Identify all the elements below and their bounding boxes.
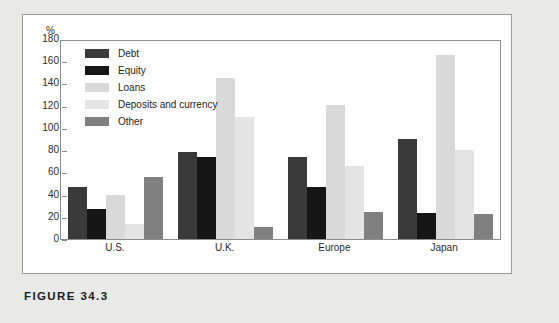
bar-japan-deposits-and-currency bbox=[455, 150, 474, 239]
bar-u-k--equity bbox=[197, 157, 216, 240]
bar-u-s--deposits-and-currency bbox=[125, 224, 144, 239]
bar-japan-other bbox=[474, 214, 493, 239]
y-axis-tick-mark bbox=[62, 240, 67, 241]
legend-item-label: Loans bbox=[118, 83, 145, 93]
bar-u-s--other bbox=[144, 177, 163, 239]
bar-group-japan bbox=[390, 41, 500, 239]
legend-item-label: Debt bbox=[118, 49, 139, 59]
bar-u-s--equity bbox=[87, 209, 106, 239]
bar-u-k--loans bbox=[216, 78, 235, 239]
legend-item-deposits-and-currency: Deposits and currency bbox=[85, 96, 218, 113]
legend-item-other: Other bbox=[85, 113, 218, 130]
legend-swatch-icon bbox=[85, 49, 109, 58]
x-axis-label-u-s-: U.S. bbox=[60, 243, 170, 253]
bar-u-s--debt bbox=[68, 187, 87, 239]
bar-japan-equity bbox=[417, 213, 436, 239]
bar-group-europe bbox=[281, 41, 391, 239]
x-axis: U.S.U.K.EuropeJapan bbox=[60, 243, 501, 263]
legend-swatch-icon bbox=[85, 117, 109, 126]
bar-europe-deposits-and-currency bbox=[345, 166, 364, 239]
x-axis-label-u-k-: U.K. bbox=[170, 243, 280, 253]
y-axis-tick-label: 180 bbox=[42, 34, 59, 44]
bar-u-k--debt bbox=[178, 152, 197, 239]
y-axis-tick-label: 0 bbox=[53, 234, 59, 244]
y-axis-tick-label: 20 bbox=[48, 212, 59, 222]
y-axis-tick-label: 40 bbox=[48, 190, 59, 200]
y-axis-tick-label: 140 bbox=[42, 78, 59, 88]
legend-item-label: Deposits and currency bbox=[118, 100, 218, 110]
legend-swatch-icon bbox=[85, 66, 109, 75]
chart-legend: DebtEquityLoansDeposits and currencyOthe… bbox=[85, 45, 218, 130]
bar-europe-debt bbox=[288, 157, 307, 240]
figure-panel: % 020406080100120140160180 DebtEquityLoa… bbox=[22, 14, 512, 274]
bar-u-k--deposits-and-currency bbox=[235, 117, 254, 239]
bar-europe-loans bbox=[326, 105, 345, 239]
bar-u-s--loans bbox=[106, 195, 125, 239]
y-axis-tick-label: 160 bbox=[42, 56, 59, 66]
legend-swatch-icon bbox=[85, 100, 109, 109]
legend-item-equity: Equity bbox=[85, 62, 218, 79]
x-axis-label-europe: Europe bbox=[280, 243, 390, 253]
bar-japan-loans bbox=[436, 55, 455, 239]
legend-item-label: Other bbox=[118, 117, 143, 127]
bar-europe-other bbox=[364, 212, 383, 240]
bar-u-k--other bbox=[254, 227, 273, 239]
figure-caption: FIGURE 34.3 bbox=[24, 290, 108, 302]
bar-japan-debt bbox=[398, 139, 417, 239]
bar-chart: % 020406080100120140160180 DebtEquityLoa… bbox=[23, 15, 513, 275]
bar-europe-equity bbox=[307, 187, 326, 239]
legend-swatch-icon bbox=[85, 83, 109, 92]
y-axis-tick-label: 60 bbox=[48, 167, 59, 177]
y-axis-tick-label: 120 bbox=[42, 101, 59, 111]
y-axis-tick-label: 80 bbox=[48, 145, 59, 155]
y-axis-tick-label: 100 bbox=[42, 123, 59, 133]
legend-item-label: Equity bbox=[118, 66, 146, 76]
legend-item-debt: Debt bbox=[85, 45, 218, 62]
legend-item-loans: Loans bbox=[85, 79, 218, 96]
x-axis-label-japan: Japan bbox=[389, 243, 499, 253]
